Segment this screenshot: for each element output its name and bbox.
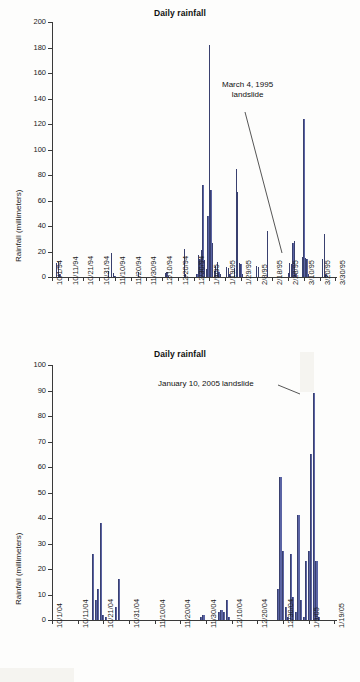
chart-panel-2004-2005: Daily rainfall Rainfall (millimeters) 01… <box>0 341 360 682</box>
annotation-leader-line <box>0 341 360 682</box>
leader-line <box>278 385 300 394</box>
annotation-leader-line <box>0 0 360 341</box>
chart-panel-1994-1995: Daily rainfall Rainfall (millimeters) 02… <box>0 0 360 341</box>
leader-line <box>245 112 282 253</box>
